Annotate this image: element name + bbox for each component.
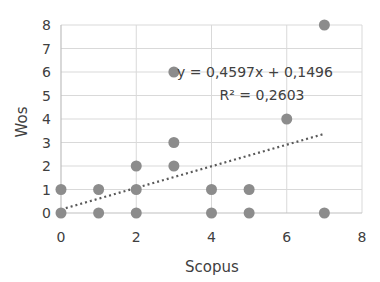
y-tick-label: 4 — [42, 111, 51, 127]
data-point — [206, 208, 217, 219]
data-point — [319, 20, 330, 31]
data-point — [131, 208, 142, 219]
y-tick-label: 6 — [42, 64, 51, 80]
trendline-r2: R² = 0,2603 — [220, 87, 305, 103]
data-point — [244, 208, 255, 219]
y-tick-label: 2 — [42, 158, 51, 174]
y-tick-label: 5 — [42, 88, 51, 104]
y-axis-title: Wos — [13, 106, 31, 137]
x-axis-title: Scopus — [185, 258, 239, 276]
x-tick-label: 6 — [282, 229, 291, 245]
scatter-chart: 01234567802468 y = 0,4597x + 0,1496 R² =… — [0, 0, 380, 282]
trendline — [61, 134, 324, 210]
y-tick-label: 3 — [42, 135, 51, 151]
y-tick-label: 7 — [42, 41, 51, 57]
data-point — [56, 184, 67, 195]
data-point — [168, 137, 179, 148]
data-point — [281, 114, 292, 125]
data-point — [131, 161, 142, 172]
data-point — [56, 208, 67, 219]
x-tick-label: 4 — [207, 229, 216, 245]
y-tick-label: 0 — [42, 205, 51, 221]
trendline-equation: y = 0,4597x + 0,1496 — [177, 64, 333, 80]
data-point — [93, 184, 104, 195]
data-point — [168, 161, 179, 172]
x-tick-label: 8 — [358, 229, 367, 245]
y-tick-label: 8 — [42, 17, 51, 33]
data-point — [93, 208, 104, 219]
data-point — [244, 184, 255, 195]
data-point — [131, 184, 142, 195]
data-point — [206, 184, 217, 195]
x-tick-label: 0 — [57, 229, 66, 245]
x-tick-label: 2 — [132, 229, 141, 245]
tick-labels: 01234567802468 — [42, 17, 366, 245]
y-tick-label: 1 — [42, 182, 51, 198]
data-point — [319, 208, 330, 219]
